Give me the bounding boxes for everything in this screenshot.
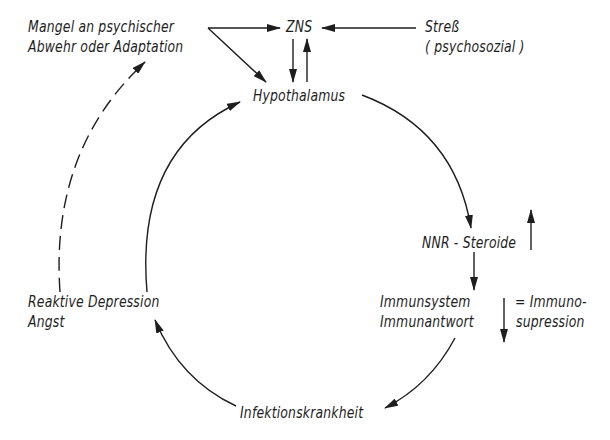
arrow-mangel-to-hypothalamus bbox=[208, 28, 266, 82]
node-immun-line2: Immunantwort bbox=[380, 312, 474, 332]
arrow-depression-to-mangel-dashed bbox=[59, 62, 145, 292]
node-infektionskrankheit: Infektionskrankheit bbox=[240, 403, 363, 423]
node-depression-line1: Reaktive Depression bbox=[28, 292, 159, 312]
node-stress-line2: ( psychosozial ) bbox=[425, 37, 525, 57]
node-stress-line1: Streß bbox=[425, 17, 459, 37]
arrow-depression-to-hypothalamus bbox=[146, 102, 240, 292]
node-nnr-steroide: NNR - Steroide bbox=[422, 233, 516, 253]
diagram-arrows bbox=[0, 0, 610, 440]
node-depression-line2: Angst bbox=[28, 312, 64, 332]
arrow-infektion-to-depression bbox=[155, 320, 236, 406]
arrow-immunsystem-to-infektion bbox=[385, 338, 455, 408]
node-hypothalamus: Hypothalamus bbox=[253, 86, 345, 106]
arrow-hypothalamus-to-nnr bbox=[362, 95, 471, 228]
node-mangel-line2: Abwehr oder Adaptation bbox=[28, 37, 183, 57]
node-zns: ZNS bbox=[286, 17, 312, 37]
node-immun-line1: Immunsystem bbox=[380, 292, 471, 312]
node-mangel-line1: Mangel an psychischer bbox=[28, 17, 174, 37]
immunosuppression-line1: = Immuno- bbox=[515, 292, 587, 312]
stress-immune-cycle-diagram: Mangel an psychischer Abwehr oder Adapta… bbox=[0, 0, 610, 440]
immunosuppression-line2: supression bbox=[516, 312, 585, 332]
